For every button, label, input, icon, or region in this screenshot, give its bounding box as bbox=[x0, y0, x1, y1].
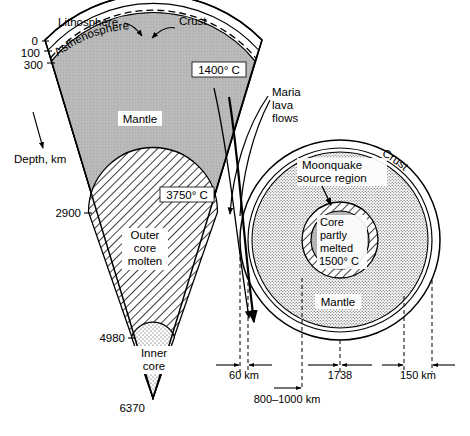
inner-core-label-group: Inner core bbox=[134, 346, 174, 374]
depth-tick-300: 300 bbox=[24, 59, 43, 71]
maria-label-2: lava bbox=[272, 99, 294, 111]
depth-tick-100: 100 bbox=[21, 47, 40, 59]
moon-core-label-1: Core bbox=[320, 216, 344, 228]
moon-mantle-label: Mantle bbox=[321, 296, 356, 308]
temp-1400-group: 1400° C bbox=[192, 62, 246, 77]
moon-group: Crust Mantle Moonquake source region Cor… bbox=[214, 86, 440, 340]
inner-core-label-2: core bbox=[143, 360, 165, 372]
outer-core-label-2: core bbox=[134, 242, 156, 254]
earth-wedge-group: 0 100 300 2900 4980 6370 Depth, km Crust… bbox=[14, 0, 262, 414]
outer-core-label-group: Outer core molten bbox=[122, 228, 168, 270]
dim-800-1000km-label: 800–1000 km bbox=[254, 393, 321, 405]
depth-axis-label: Depth, km bbox=[14, 153, 66, 165]
moon-mantle-label-group: Mantle bbox=[315, 294, 361, 309]
dim-1738-label: 1738 bbox=[328, 369, 352, 381]
maria-label-3: flows bbox=[272, 112, 298, 124]
depth-tick-2900: 2900 bbox=[55, 207, 81, 219]
depth-axis-arrow bbox=[33, 112, 43, 148]
outer-core-label-1: Outer bbox=[131, 229, 160, 241]
earth-mantle-label: Mantle bbox=[123, 113, 158, 125]
figure-canvas: 0 100 300 2900 4980 6370 Depth, km Crust… bbox=[0, 0, 470, 436]
moon-core-label-4: 1500° C bbox=[319, 255, 359, 267]
maria-label-group: Maria lava flows bbox=[272, 86, 301, 124]
temp-3750-label: 3750° C bbox=[166, 189, 208, 201]
depth-tick-0: 0 bbox=[32, 35, 38, 47]
dim-150km-label: 150 km bbox=[400, 369, 436, 381]
depth-tick-6370: 6370 bbox=[119, 402, 145, 414]
maria-label-1: Maria bbox=[272, 86, 301, 98]
moon-core-label-2: partly bbox=[320, 229, 347, 241]
earth-crust-label: Crust bbox=[179, 15, 207, 27]
temp-3750-group: 3750° C bbox=[160, 187, 214, 202]
moonquake-label-group: Moonquake source region bbox=[297, 158, 387, 186]
dim-60km-label: 60 km bbox=[229, 369, 259, 381]
moon-core-label-group: Core partly melted 1500° C bbox=[317, 215, 367, 269]
outer-core-label-3: molten bbox=[128, 255, 163, 267]
moonquake-label-2: source region bbox=[297, 172, 367, 184]
inner-core-label-1: Inner bbox=[141, 347, 167, 359]
moon-core-label-3: melted bbox=[320, 242, 353, 254]
moonquake-label-1: Moonquake bbox=[302, 159, 362, 171]
earth-mantle-label-group: Mantle bbox=[118, 111, 162, 126]
earth-moon-cross-section-diagram: 0 100 300 2900 4980 6370 Depth, km Crust… bbox=[0, 0, 470, 436]
temp-1400-label: 1400° C bbox=[198, 64, 240, 76]
depth-tick-4980: 4980 bbox=[99, 332, 125, 344]
